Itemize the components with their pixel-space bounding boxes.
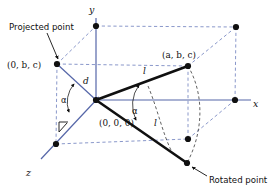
- dot-x-axis-point[interactable]: [232, 97, 238, 103]
- length-label-lower: l: [154, 118, 157, 128]
- dash-top-edge: [96, 26, 236, 27]
- length-label-upper: l: [143, 66, 146, 76]
- dash-bottom-to-xaxis: [188, 100, 235, 139]
- dot-y-axis-point[interactable]: [93, 23, 99, 29]
- segment-origin-to-point: [96, 66, 188, 100]
- dot-projected-point[interactable]: [54, 61, 60, 67]
- angle-label-right: α: [132, 106, 138, 116]
- z-axis-label: z: [25, 167, 31, 178]
- figure-canvas: y x z Projected point Rotated point (0, …: [0, 0, 271, 190]
- labels-group: y x z Projected point Rotated point (0, …: [7, 4, 268, 185]
- dot-rotated-point[interactable]: [184, 160, 190, 166]
- dash-projected-to-point: [57, 64, 188, 66]
- angle-label-left: α: [61, 95, 67, 105]
- x-axis-label: x: [253, 98, 259, 109]
- rotated-point-caption: Rotated point: [209, 175, 268, 185]
- dash-topright-vertical: [235, 27, 236, 100]
- right-angle-hyp: [59, 123, 67, 132]
- leader-projected-point: [47, 33, 58, 59]
- segment-origin-to-rotated: [96, 100, 187, 163]
- right-angle-marker-group: [59, 122, 68, 132]
- projected-coord-label: (0, b, c): [7, 60, 41, 70]
- leader-rotated-point: [192, 167, 207, 176]
- diagram-svg: y x z Projected point Rotated point (0, …: [0, 0, 271, 190]
- vector-segments-group: [96, 66, 188, 163]
- points-group: [53, 23, 239, 166]
- rotation-arc-inner: [148, 86, 172, 152]
- projected-point-caption: Projected point: [9, 22, 74, 32]
- origin-coord-label: (0, 0, 0): [99, 118, 134, 128]
- dot-z-axis-point[interactable]: [53, 141, 59, 147]
- z-axis-line: [41, 97, 99, 159]
- distance-label: d: [83, 76, 89, 86]
- angle-arc-left: [67, 84, 74, 112]
- dash-left-vertical-edge: [56, 64, 57, 144]
- dot-box-corner-bottom[interactable]: [185, 136, 191, 142]
- y-axis-label: y: [88, 4, 95, 15]
- axes-group: [41, 18, 251, 159]
- point-coord-label: (a, b, c): [162, 50, 196, 60]
- dash-point-to-topright: [188, 27, 236, 66]
- dot-original-point[interactable]: [185, 63, 191, 69]
- rotation-arc-group: [148, 66, 200, 163]
- dot-origin[interactable]: [93, 97, 99, 103]
- rotation-arc: [187, 66, 200, 163]
- dot-box-corner-top-right[interactable]: [233, 24, 239, 30]
